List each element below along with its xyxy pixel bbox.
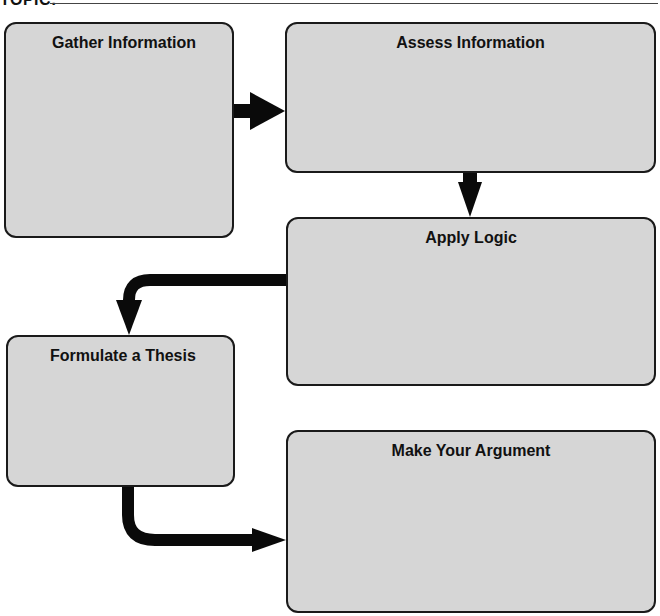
- arrow-elbow-down-right-icon: [128, 487, 286, 552]
- box-make-argument[interactable]: Make Your Argument: [286, 430, 656, 613]
- box-title: Formulate a Thesis: [50, 347, 233, 365]
- box-apply-logic[interactable]: Apply Logic: [286, 217, 656, 386]
- box-formulate-thesis[interactable]: Formulate a Thesis: [6, 335, 235, 487]
- box-assess-information[interactable]: Assess Information: [285, 22, 656, 173]
- arrow-right-icon: [234, 92, 285, 130]
- box-title: Assess Information: [287, 34, 654, 52]
- box-title: Apply Logic: [288, 229, 654, 247]
- arrow-down-icon: [458, 173, 482, 217]
- box-gather-information[interactable]: Gather Information: [4, 22, 234, 238]
- box-title: Gather Information: [52, 34, 232, 52]
- arrow-elbow-left-down-icon: [116, 280, 286, 335]
- box-title: Make Your Argument: [288, 442, 654, 460]
